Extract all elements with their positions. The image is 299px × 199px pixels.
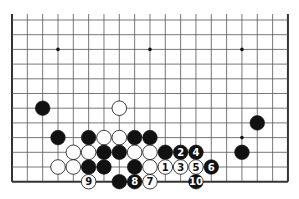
black-stone-icon [158,145,173,160]
white-stone [81,145,96,160]
black-stone [250,116,265,131]
move-number-label: 10 [189,176,203,187]
black-stone-icon [112,145,127,160]
black-stone-numbered: 4 [189,145,204,160]
black-stone [235,145,250,160]
white-stone-icon [97,130,112,145]
white-stone-icon [112,130,127,145]
white-stone-icon [143,160,158,175]
black-stone-icon [250,116,265,131]
black-stone [97,145,112,160]
white-stone [51,160,66,175]
move-number-label: 4 [192,147,199,158]
black-stone-icon [97,160,112,175]
star-point-icon [240,136,244,140]
black-stone [158,145,173,160]
black-stone-icon [112,174,127,189]
white-stone-numbered: 7 [143,174,158,189]
black-stone [127,130,142,145]
white-stone [112,101,127,116]
move-number-label: 5 [192,162,199,173]
black-stone [143,130,158,145]
black-stone [112,145,127,160]
star-point-icon [240,48,244,52]
white-stone-icon [66,145,81,160]
move-number-label: 1 [162,162,169,173]
star-point-icon [148,48,152,52]
star-point-icon [56,48,60,52]
black-stone-icon [81,160,96,175]
move-number-label: 6 [208,162,215,173]
black-stone-numbered: 8 [127,174,142,189]
white-stone-numbered: 5 [189,160,204,175]
black-stone-icon [127,130,142,145]
white-stone [127,145,142,160]
white-stone-numbered: 9 [81,174,96,189]
black-stone [81,130,96,145]
white-stone [143,145,158,160]
black-stone-icon [143,130,158,145]
black-stone-icon [127,160,142,175]
black-stone-icon [35,101,50,116]
move-number-label: 2 [177,147,184,158]
move-number-label: 8 [131,176,138,187]
go-board: 24135698710 [0,0,299,199]
white-stone-numbered: 1 [158,160,173,175]
white-stone [97,130,112,145]
white-stone-numbered: 3 [173,160,188,175]
black-stone [35,101,50,116]
white-stone-icon [143,145,158,160]
white-stone-icon [112,101,127,116]
move-number-label: 9 [85,176,92,187]
black-stone-icon [81,130,96,145]
black-stone-icon [97,145,112,160]
white-stone-icon [66,160,81,175]
black-stone [81,160,96,175]
black-stone [97,160,112,175]
white-stone [66,160,81,175]
black-stone [112,174,127,189]
black-stone-numbered: 6 [204,160,219,175]
white-stone [112,130,127,145]
black-stone [51,130,66,145]
move-number-label: 3 [177,162,184,173]
black-stone-numbered: 2 [173,145,188,160]
white-stone-icon [127,145,142,160]
black-stone-numbered: 10 [189,174,204,189]
white-stone [66,145,81,160]
black-stone-icon [235,145,250,160]
black-stone-icon [51,130,66,145]
white-stone-icon [51,160,66,175]
black-stone [127,160,142,175]
move-number-label: 7 [146,176,153,187]
white-stone [143,160,158,175]
white-stone-icon [81,145,96,160]
